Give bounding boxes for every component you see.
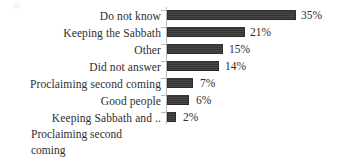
- chart-row: Keeping Sabbath and .. 2%: [0, 110, 361, 126]
- category-label: Keeping the Sabbath: [0, 25, 161, 41]
- chart-row: Proclaiming second coming 7%: [0, 76, 361, 92]
- bar: [167, 27, 245, 37]
- axis-tick: [161, 78, 166, 79]
- axis-tick: [161, 95, 166, 96]
- chart-row: Do not know 35%: [0, 8, 361, 24]
- bar-value-label: 15%: [229, 42, 250, 57]
- chart-row: Good people 6%: [0, 93, 361, 109]
- category-label: Good people: [0, 93, 161, 109]
- bar-chart: Do not know 35% Keeping the Sabbath 21% …: [0, 0, 361, 163]
- bar-value-label: 6%: [196, 93, 211, 108]
- bar: [167, 78, 193, 88]
- bar-value-label: 2%: [183, 110, 198, 125]
- axis-tick: [161, 61, 166, 62]
- axis-tick: [161, 44, 166, 45]
- bar: [167, 61, 219, 71]
- category-label: Did not answer: [0, 59, 161, 75]
- axis-tick: [161, 10, 166, 11]
- category-label: Keeping Sabbath and ..: [0, 110, 161, 126]
- bar-value-label: 7%: [200, 76, 215, 91]
- chart-row: Did not answer 14%: [0, 59, 361, 75]
- bar: [167, 10, 296, 20]
- bar: [167, 44, 223, 54]
- category-label-wrap-line: Proclaiming second: [31, 126, 331, 142]
- category-label: Other: [0, 42, 161, 58]
- bar-value-label: 14%: [225, 59, 246, 74]
- chart-row: Other 15%: [0, 42, 361, 58]
- bar-value-label: 21%: [250, 25, 271, 40]
- axis-tick: [161, 27, 166, 28]
- bar-value-label: 35%: [301, 8, 322, 23]
- bar: [167, 112, 176, 122]
- category-label: Proclaiming second coming: [0, 76, 161, 92]
- chart-row: Keeping the Sabbath 21%: [0, 25, 361, 41]
- category-label-wrap-line: coming: [31, 142, 331, 158]
- bar: [167, 95, 189, 105]
- category-label: Do not know: [0, 8, 161, 24]
- axis-tick: [161, 112, 166, 113]
